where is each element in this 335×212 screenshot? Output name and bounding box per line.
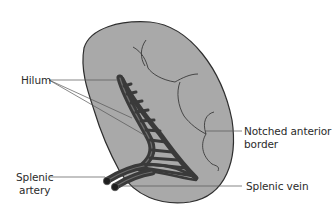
splenic-artery-label-line1: Splenic: [16, 171, 53, 184]
hilum-label: Hilum: [21, 74, 51, 87]
splenic-vein-end: [111, 183, 118, 191]
splenic-artery-label-line2: artery: [16, 184, 53, 197]
notched-border-label-line2: border: [244, 138, 331, 151]
notched-anterior-border-label: Notched anterior border: [244, 125, 331, 151]
notched-border-label-line1: Notched anterior: [244, 125, 331, 138]
splenic-artery-end: [103, 177, 110, 185]
splenic-vein-label: Splenic vein: [246, 180, 308, 193]
splenic-artery-label: Splenic artery: [16, 171, 53, 197]
